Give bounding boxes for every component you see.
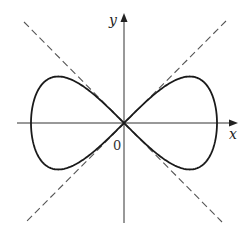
- y-axis-label: y: [108, 12, 118, 28]
- figure-eight-plot: y x 0: [0, 0, 238, 231]
- y-axis-arrow-icon: [121, 13, 128, 22]
- x-axis-label: x: [229, 126, 237, 142]
- origin-label: 0: [113, 138, 121, 153]
